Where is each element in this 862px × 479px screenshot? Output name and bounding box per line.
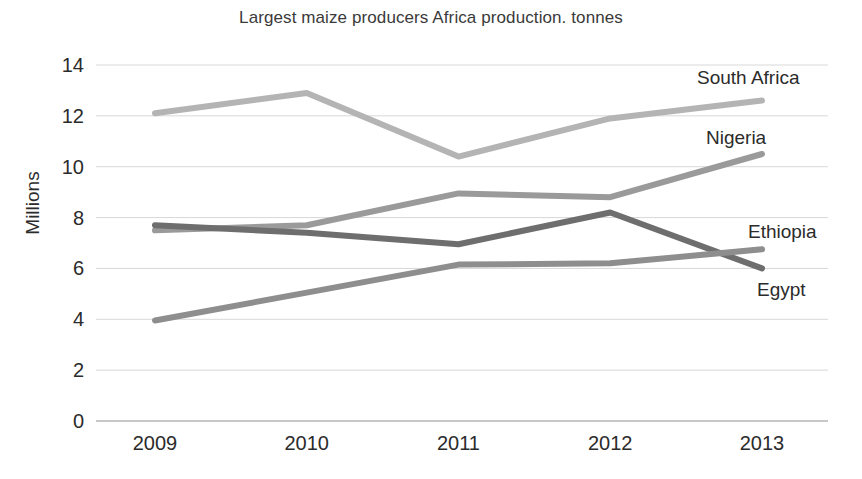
x-tick-label: 2011 (399, 433, 519, 453)
x-tick-label: 2013 (702, 433, 822, 453)
series-line-nigeria (155, 154, 762, 230)
y-tick-label: 6 (38, 258, 84, 278)
y-tick-label: 12 (38, 106, 84, 126)
y-tick-label: 10 (38, 157, 84, 177)
y-tick-label: 8 (38, 208, 84, 228)
series-label-south-africa: South Africa (697, 68, 799, 87)
chart-container: Largest maize producers Africa productio… (0, 0, 862, 479)
x-tick-label: 2012 (550, 433, 670, 453)
series-label-egypt: Egypt (757, 280, 806, 299)
series-line-egypt (155, 249, 762, 320)
y-tick-label: 0 (38, 411, 84, 431)
y-tick-label: 14 (38, 55, 84, 75)
x-tick-label: 2010 (247, 433, 367, 453)
x-tick-label: 2009 (95, 433, 215, 453)
y-tick-label: 4 (38, 309, 84, 329)
series-label-nigeria: Nigeria (706, 128, 766, 147)
y-tick-label: 2 (38, 360, 84, 380)
series-line-south-africa (155, 93, 762, 157)
series-lines (155, 93, 762, 321)
series-label-ethiopia: Ethiopia (748, 222, 817, 241)
